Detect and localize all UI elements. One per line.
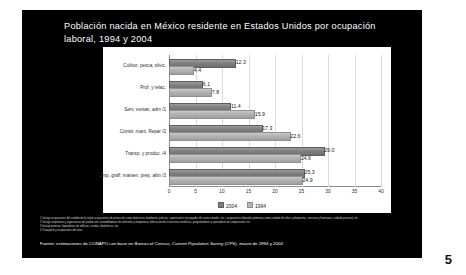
chart-inner: Cultivo, pesca, silvic.12.34.4Prof. y re… xyxy=(103,51,391,209)
bar-value-label: 12.3 xyxy=(236,59,246,66)
source-suffix: (CPS), marzo de 1994 y 2004 xyxy=(224,241,283,246)
x-tick-label: 25 xyxy=(299,189,304,194)
bar-value-label: 17.3 xyxy=(262,125,272,132)
x-tick-label: 30 xyxy=(325,189,330,194)
bar-value-label: 6.1 xyxy=(203,81,210,88)
x-tick-label: 40 xyxy=(378,189,383,194)
source-prefix: Fuente: estimaciones de CONAPO con base … xyxy=(40,241,172,246)
x-tick-label: 15 xyxy=(246,189,251,194)
bar-value-label: 15.9 xyxy=(255,111,265,118)
legend-item: 1994 xyxy=(247,202,266,209)
footnote-line: 4 Transporte y ocupaciones del área. xyxy=(40,229,406,233)
chart-category-group: Prof. y relac.6.17.8 xyxy=(169,77,381,99)
category-label: Cultivo, pesca, silvic. xyxy=(123,63,166,68)
chart-category-group: Transp. y produc. /429.024.6 xyxy=(169,143,381,165)
slide-root: Población nacida en México residente en … xyxy=(0,0,466,275)
footnote-line: 3 Incluye porteros, limpiadores de edifi… xyxy=(40,225,406,229)
slide-number: 5 xyxy=(445,252,452,267)
bar-value-label: 4.4 xyxy=(194,67,201,74)
legend-swatch xyxy=(218,202,224,208)
category-label: Prof. y relac. xyxy=(140,85,166,90)
bar-value-label: 29.0 xyxy=(324,147,334,154)
slide-canvas: Población nacida en México residente en … xyxy=(22,10,422,258)
chart-bar xyxy=(169,110,255,119)
chart-bar xyxy=(169,176,303,185)
chart-category-group: Serv, ventas, adm /111.415.9 xyxy=(169,99,381,121)
x-tick-label: 10 xyxy=(219,189,224,194)
x-tick-label: 0 xyxy=(168,189,171,194)
footnotes-block: 1 Incluye ocupaciones del cuidado de la … xyxy=(40,217,406,233)
category-label: Serv, ventas, adm /1 xyxy=(124,107,166,112)
x-tick-label: 5 xyxy=(194,189,197,194)
bar-value-label: 7.8 xyxy=(212,89,219,96)
bar-value-label: 24.9 xyxy=(302,177,312,184)
bar-value-label: 11.4 xyxy=(231,103,241,110)
bar-value-label: 24.6 xyxy=(301,155,311,162)
legend-label: 2004 xyxy=(226,202,237,208)
legend-item: 2004 xyxy=(218,202,237,209)
chart-category-group: Limp, graff, manten, prep, alim /325.324… xyxy=(169,165,381,187)
chart-bar xyxy=(169,88,212,97)
x-tick-label: 35 xyxy=(352,189,357,194)
x-tick-label: 20 xyxy=(272,189,277,194)
legend-swatch xyxy=(247,202,253,208)
chart-legend: 20041994 xyxy=(103,202,381,209)
category-label: Transp. y produc. /4 xyxy=(125,151,166,156)
chart-plot-area: Cultivo, pesca, silvic.12.34.4Prof. y re… xyxy=(169,55,381,187)
chart-category-group: Constr, mant, Repar /217.322.6 xyxy=(169,121,381,143)
category-label: Constr, mant, Repar /2 xyxy=(120,129,166,134)
category-label: Limp, graff, manten, prep, alim /3 xyxy=(99,173,166,178)
bar-value-label: 22.6 xyxy=(290,133,300,140)
gridline xyxy=(381,55,382,187)
source-line: Fuente: estimaciones de CONAPO con base … xyxy=(40,241,410,247)
legend-label: 1994 xyxy=(255,202,266,208)
chart-container: Cultivo, pesca, silvic.12.34.4Prof. y re… xyxy=(103,47,391,213)
chart-bar xyxy=(169,132,291,141)
chart-category-group: Cultivo, pesca, silvic.12.34.4 xyxy=(169,55,381,77)
chart-bar xyxy=(169,66,194,75)
page-title: Población nacida en México residente en … xyxy=(64,20,394,46)
source-italic: Current Population Survey xyxy=(172,241,224,246)
bar-value-label: 25.3 xyxy=(305,169,315,176)
chart-bar xyxy=(169,154,301,163)
